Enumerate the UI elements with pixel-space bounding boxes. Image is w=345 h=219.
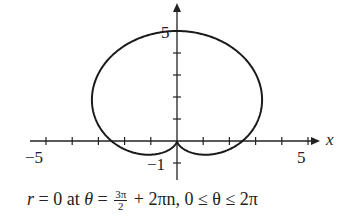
caption-r: r bbox=[27, 189, 34, 209]
x-tick-label-max: 5 bbox=[297, 149, 306, 166]
caption-theta: θ bbox=[84, 189, 93, 209]
y-tick-label-min: −1 bbox=[147, 156, 165, 173]
caption-equals: = bbox=[93, 189, 112, 209]
x-tick-label-min: −5 bbox=[25, 149, 43, 166]
y-tick-label-max: 5 bbox=[161, 24, 170, 41]
caption-text: = 0 at bbox=[34, 189, 84, 209]
caption: r = 0 at θ = 3π2 + 2πn, 0 ≤ θ ≤ 2π bbox=[27, 189, 258, 212]
caption-rest: + 2πn, 0 ≤ θ ≤ 2π bbox=[129, 189, 258, 209]
x-axis-label: x bbox=[326, 131, 334, 148]
y-axis-arrow-icon bbox=[173, 3, 181, 12]
caption-fraction: 3π2 bbox=[114, 189, 127, 212]
fraction-denominator: 2 bbox=[114, 201, 127, 212]
x-axis-arrow-icon bbox=[311, 137, 320, 145]
polar-plot bbox=[0, 0, 345, 219]
